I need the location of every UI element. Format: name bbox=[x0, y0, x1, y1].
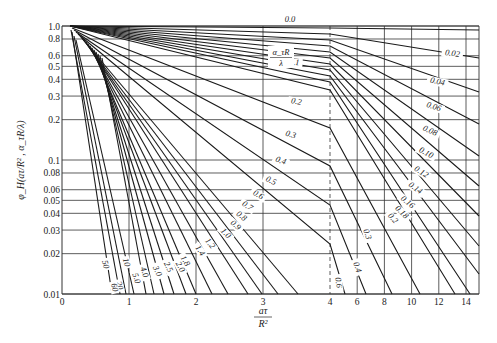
curve-label: 0.06 bbox=[422, 98, 445, 114]
curve-label: 0.0 bbox=[282, 14, 299, 24]
y-tick-label: 0.3 bbox=[48, 92, 60, 102]
y-tick-label: 0.01 bbox=[43, 290, 60, 300]
y-tick-label: 0.08 bbox=[43, 168, 60, 178]
parameter-label-num: α_τR bbox=[273, 47, 291, 57]
x-tick-label: 1 bbox=[127, 297, 132, 307]
y-tick-label: 0.06 bbox=[43, 185, 60, 195]
y-axis-label: φ_H(aτ/R² , α_τR/λ) bbox=[15, 120, 27, 200]
curve-0.9 bbox=[84, 40, 262, 294]
y-tick-label: 0.4 bbox=[48, 75, 60, 85]
curve-label: 0.3 bbox=[281, 127, 300, 141]
svg-text:0.02: 0.02 bbox=[444, 47, 461, 59]
parameter-label-den: λ bbox=[278, 58, 283, 68]
heisler-chart: 1.00.80.60.50.40.30.20.10.080.060.050.04… bbox=[0, 0, 497, 343]
curve-60 bbox=[71, 30, 120, 294]
x-tick-label: 14 bbox=[461, 297, 471, 307]
curve-label: 50 bbox=[100, 257, 113, 271]
curve-20 bbox=[74, 36, 126, 294]
svg-text:0.04: 0.04 bbox=[429, 75, 446, 88]
y-tick-label: 1.0 bbox=[48, 22, 60, 32]
x-tick-label: 0 bbox=[60, 297, 65, 307]
y-tick-label: 0.05 bbox=[43, 196, 60, 206]
curve-label: 60 bbox=[109, 280, 122, 294]
curve-0.5 bbox=[76, 32, 366, 294]
y-tick-label: 0.04 bbox=[43, 209, 60, 219]
y-tick-label: 0.2 bbox=[48, 115, 60, 125]
curve-label: 0.02 bbox=[441, 47, 464, 60]
x-tick-label: 4 bbox=[328, 297, 333, 307]
y-tick-label: 0.1 bbox=[48, 156, 60, 166]
curve-label: 0.10 bbox=[415, 143, 439, 162]
curve-1.2 bbox=[88, 44, 228, 294]
y-tick-label: 0.6 bbox=[48, 51, 60, 61]
curve-label: 0.3 bbox=[361, 225, 376, 244]
x-axis-label: aτ R² bbox=[254, 305, 272, 329]
x-axis-label-num: aτ bbox=[259, 305, 268, 316]
y-tick-label: 0.5 bbox=[48, 62, 60, 72]
x-tick-label: 8 bbox=[382, 297, 387, 307]
curve-label: 0.5 bbox=[262, 172, 281, 188]
x-tick-label: 12 bbox=[434, 297, 444, 307]
x-tick-label: 10 bbox=[407, 297, 417, 307]
svg-text:0.0: 0.0 bbox=[285, 14, 296, 24]
y-tick-label: 0.8 bbox=[48, 34, 60, 44]
y-tick-label: 0.02 bbox=[43, 249, 60, 259]
curve-label: 0.04 bbox=[426, 74, 449, 88]
curve-label: 0.2 bbox=[287, 95, 305, 108]
x-tick-label: 2 bbox=[194, 297, 199, 307]
x-axis-label-den: R² bbox=[257, 318, 268, 329]
curve-label: 0.4 bbox=[351, 258, 366, 277]
curve-label: 0.6 bbox=[333, 274, 345, 292]
curve-label: 0.4 bbox=[271, 153, 290, 168]
x-tick-label: 6 bbox=[355, 297, 360, 307]
parameter-label: α_τR λ bbox=[268, 46, 294, 68]
curve-label: 10 bbox=[120, 255, 133, 269]
y-tick-label: 0.03 bbox=[43, 226, 60, 236]
